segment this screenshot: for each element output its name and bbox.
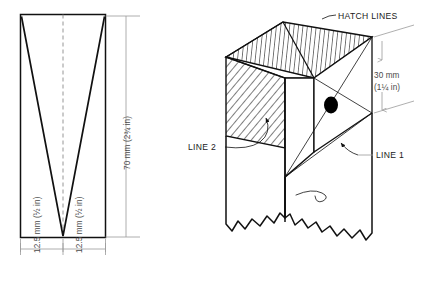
vertical-dimension-label: 70 mm (2¾ in) <box>123 116 132 170</box>
line-1-label: LINE 1 <box>376 150 404 160</box>
center-point-marker <box>324 97 338 114</box>
horizontal-dimension-label-right: 12.5 mm (½ in) <box>75 196 84 253</box>
dimension-30-metric-label: 30 mm <box>374 71 400 80</box>
horizontal-dimension-label-left: 12.5 mm (½ in) <box>33 196 42 253</box>
dimension-30-imperial-label: (1¼ in) <box>374 83 400 92</box>
line-2-label: LINE 2 <box>188 142 216 152</box>
hatch-lines-label: HATCH LINES <box>338 11 398 21</box>
technical-diagram-figure: 70 mm (2¾ in) 12.5 mm (½ in) 12.5 mm (½ … <box>0 0 422 296</box>
